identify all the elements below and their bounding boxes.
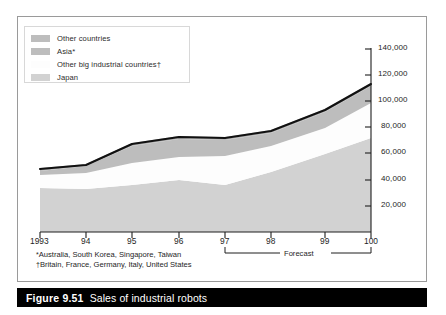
- legend-label-japan: Japan: [57, 73, 78, 82]
- x-tick-label-99: 99: [320, 236, 329, 246]
- footnotes: *Australia, South Korea, Singapore, Taiw…: [36, 250, 192, 270]
- y-tick-label-100000: 100,000: [378, 95, 408, 104]
- footnote-dagger-text: Britain, France, Germany, Italy, United …: [40, 260, 192, 269]
- chart-legend: Other countries Asia* Other big industri…: [24, 26, 190, 83]
- x-tick-label-96: 96: [174, 236, 183, 246]
- y-tick-label-20000: 20,000: [381, 200, 406, 209]
- x-tick-label-97: 97: [220, 236, 229, 246]
- legend-label-other-big-industrial: Other big industrial countries†: [57, 60, 161, 69]
- y-tick-label-40000: 40,000: [381, 174, 406, 183]
- x-tick-label-98: 98: [266, 236, 275, 246]
- legend-item-japan: Japan: [31, 71, 189, 83]
- legend-label-asia: Asia*: [57, 47, 75, 56]
- x-tick-label-100: 100: [364, 236, 378, 246]
- y-tick-label-60000: 60,000: [381, 147, 406, 156]
- footnote-asterisk-text: Australia, South Korea, Singapore, Taiwa…: [39, 250, 182, 259]
- figure-title: Sales of industrial robots: [90, 292, 208, 304]
- x-tick-label-94: 94: [81, 236, 90, 246]
- legend-item-other-big-industrial: Other big industrial countries†: [31, 58, 189, 70]
- x-tick-label-1993: 1993: [30, 236, 49, 246]
- figure-container: 140,000 120,000 100,000 80,000 60,000 40…: [0, 0, 446, 315]
- figure-number: Figure 9.51: [26, 292, 84, 304]
- figure-title-bar: Figure 9.51 Sales of industrial robots: [17, 288, 427, 307]
- legend-item-other-countries: Other countries: [31, 32, 189, 44]
- legend-swatch-icon-asia: [31, 48, 50, 55]
- y-tick-label-120000: 120,000: [378, 69, 408, 78]
- legend-swatch-icon-japan: [31, 74, 50, 81]
- y-tick-label-140000: 140,000: [378, 43, 408, 52]
- legend-swatch-icon-other-countries: [31, 35, 50, 42]
- footnote-asterisk: *Australia, South Korea, Singapore, Taiw…: [36, 250, 192, 260]
- legend-item-asia: Asia*: [31, 45, 189, 57]
- y-tick-label-80000: 80,000: [381, 121, 406, 130]
- legend-label-other-countries: Other countries: [57, 34, 110, 43]
- footnote-dagger: †Britain, France, Germany, Italy, United…: [36, 260, 192, 270]
- legend-swatch-icon-other-big-industrial: [31, 61, 50, 68]
- forecast-label: Forecast: [284, 249, 314, 258]
- x-tick-label-95: 95: [127, 236, 136, 246]
